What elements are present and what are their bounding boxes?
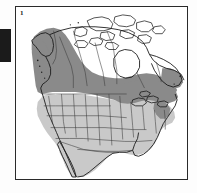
arctic-archipelago bbox=[74, 15, 165, 50]
hudson-bay bbox=[114, 50, 140, 79]
range-map-frame: 1 bbox=[15, 6, 188, 180]
figure-page: 1 bbox=[0, 0, 197, 193]
territory-border-north bbox=[73, 31, 77, 45]
north-america-range-map bbox=[16, 7, 187, 179]
figure-number-label: 1 bbox=[20, 10, 24, 17]
scan-edge-bar-artifact bbox=[0, 29, 11, 62]
